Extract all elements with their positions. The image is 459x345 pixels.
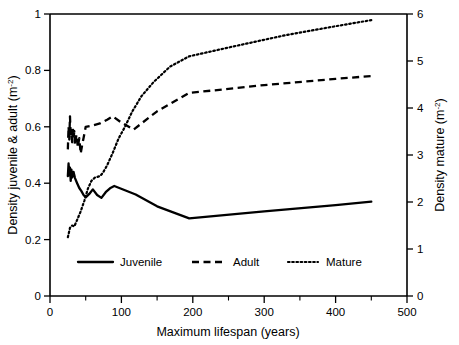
right-ticklabel-0: 0 (417, 290, 423, 302)
right-axis-title: Density mature (m-2) (433, 98, 447, 211)
x-ticklabel-0: 0 (47, 306, 53, 318)
chart-svg: 0 0.2 0.4 0.6 0.8 1 0 1 2 3 4 5 6 (0, 0, 459, 345)
right-ticklabel-5: 5 (417, 55, 423, 67)
x-ticklabel-3: 300 (255, 306, 274, 318)
legend-label-adult: Adult (233, 256, 260, 268)
x-ticklabel-2: 200 (183, 306, 202, 318)
x-ticklabel-5: 500 (397, 306, 416, 318)
right-ticklabel-4: 4 (417, 102, 424, 114)
left-axis-ticklabels: 0 0.2 0.4 0.6 0.8 1 (25, 8, 42, 302)
chart-figure: 0 0.2 0.4 0.6 0.8 1 0 1 2 3 4 5 6 (0, 0, 459, 345)
right-ticklabel-1: 1 (417, 243, 423, 255)
left-ticklabel-1: 0.2 (25, 234, 41, 246)
series-line-juvenile (68, 163, 371, 218)
x-ticklabel-1: 100 (112, 306, 131, 318)
x-axis-ticklabels: 0 100 200 300 400 500 (47, 306, 417, 318)
legend: Juvenile Adult Mature (78, 256, 362, 268)
left-ticklabel-2: 0.4 (25, 177, 42, 189)
left-axis-title: Density juvenile & adult (m-2) (6, 75, 20, 234)
right-ticklabel-6: 6 (417, 8, 423, 20)
legend-label-mature: Mature (326, 256, 362, 268)
left-ticklabel-3: 0.6 (25, 121, 41, 133)
right-ticklabel-3: 3 (417, 149, 423, 161)
legend-label-juvenile: Juvenile (120, 256, 162, 268)
left-ticklabel-0: 0 (35, 290, 41, 302)
x-axis-title: Maximum lifespan (years) (156, 325, 299, 339)
left-axis-ticks (44, 14, 50, 296)
x-axis-ticks (50, 296, 407, 303)
x-ticklabel-4: 400 (326, 306, 345, 318)
series-line-mature (68, 20, 371, 237)
right-axis-ticks (407, 14, 413, 296)
right-axis-ticklabels: 0 1 2 3 4 5 6 (417, 8, 424, 302)
left-ticklabel-5: 1 (35, 8, 41, 20)
right-ticklabel-2: 2 (417, 196, 423, 208)
series-line-adult (68, 76, 371, 154)
left-ticklabel-4: 0.8 (25, 64, 41, 76)
plot-frame (50, 14, 407, 296)
